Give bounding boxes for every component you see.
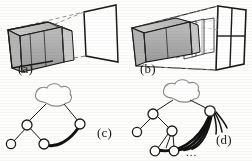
thick-curved-edge-fan-d — [157, 114, 212, 151]
figure-canvas: (a) — [0, 0, 252, 161]
node-right-mid — [205, 106, 215, 116]
far-frame-b — [216, 6, 246, 70]
node-center — [167, 126, 177, 136]
node-bottom-left — [150, 146, 160, 156]
panel-c-graph: (c) — [0, 80, 126, 161]
cloud-root-node-c — [35, 84, 71, 106]
panel-d-graph: ... (d) — [126, 80, 252, 161]
node-far-left — [6, 139, 15, 148]
node-bottom-mid — [39, 139, 49, 149]
node-bottom-right — [169, 146, 179, 156]
node-left-mid — [148, 109, 158, 119]
node-right-mid — [75, 119, 85, 129]
panel-b-label: (b) — [140, 62, 156, 75]
panel-a-label: (a) — [18, 62, 33, 75]
thick-curved-edge-c — [46, 127, 79, 146]
far-frame-a — [84, 5, 118, 62]
panel-a-perspective-box: (a) — [0, 0, 126, 80]
panel-c-svg — [0, 80, 126, 161]
continuation-ellipsis: ... — [186, 147, 197, 158]
node-far-left — [132, 127, 141, 136]
cloud-root-node-d — [163, 80, 199, 102]
node-left-mid — [22, 120, 32, 130]
panel-c-label: (c) — [97, 126, 112, 139]
panel-b-perspective-box: (b) — [126, 0, 252, 80]
trailing-strokes-d — [214, 112, 227, 134]
panel-d-label: (d) — [216, 133, 232, 146]
